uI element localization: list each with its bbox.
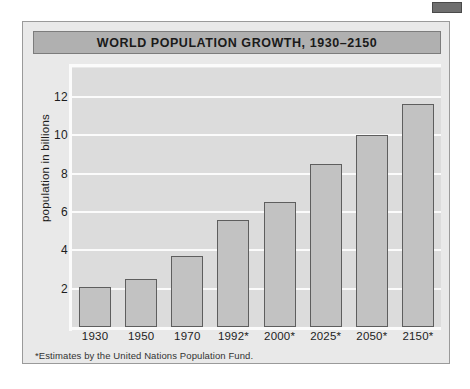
chart-title-bar: WORLD POPULATION GROWTH, 1930–2150 bbox=[33, 31, 441, 54]
y-tick-label: 8 bbox=[61, 167, 68, 181]
x-tick-label: 1970 bbox=[164, 330, 210, 342]
plot-area bbox=[72, 68, 441, 327]
x-tick-label: 1930 bbox=[72, 330, 118, 342]
x-tick-label: 2025* bbox=[303, 330, 349, 342]
bar-1950 bbox=[125, 279, 157, 327]
bar-1970 bbox=[171, 256, 203, 327]
bar-2000 bbox=[264, 202, 296, 327]
x-tick-label: 2000* bbox=[257, 330, 303, 342]
y-tick-label: 6 bbox=[61, 205, 68, 219]
y-tick-label: 12 bbox=[54, 90, 68, 104]
x-tick-label: 2050* bbox=[349, 330, 395, 342]
bar-2025 bbox=[310, 164, 342, 327]
x-axis-tick-labels: 1930195019701992*2000*2025*2050*2150* bbox=[72, 330, 441, 348]
plot-inner bbox=[72, 68, 441, 327]
y-axis-tick-labels: 24681012 bbox=[23, 68, 68, 327]
x-tick-label: 1950 bbox=[118, 330, 164, 342]
chart-figure-frame: WORLD POPULATION GROWTH, 1930–2150 popul… bbox=[22, 21, 450, 364]
bar-2150 bbox=[402, 104, 434, 327]
y-axis-line bbox=[69, 64, 72, 331]
page-title: WORLD POPULATION GROWTH, 1930–2150 bbox=[97, 36, 377, 50]
y-tick-label: 4 bbox=[61, 243, 68, 257]
plot-top-edge bbox=[69, 64, 441, 67]
y-tick-label: 2 bbox=[61, 282, 68, 296]
x-tick-label: 1992* bbox=[210, 330, 256, 342]
bar-2050 bbox=[356, 135, 388, 327]
x-tick-label: 2150* bbox=[395, 330, 441, 342]
bar-1992 bbox=[217, 220, 249, 327]
bar-1930 bbox=[79, 287, 111, 327]
corner-tab-mark bbox=[432, 2, 462, 13]
chart-footnote: *Estimates by the United Nations Populat… bbox=[35, 350, 253, 361]
gridline bbox=[72, 96, 441, 98]
y-tick-label: 10 bbox=[54, 128, 68, 142]
